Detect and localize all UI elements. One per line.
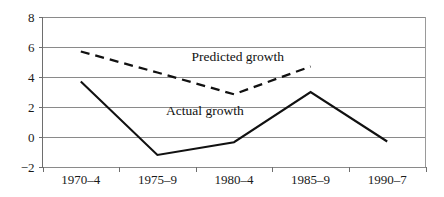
- y-axis-label-6: 6: [28, 40, 35, 55]
- x-axis-label-2: 1980–4: [215, 172, 255, 187]
- y-axis-label--2: −2: [21, 160, 35, 175]
- annotation-predicted-growth: Predicted growth: [192, 49, 285, 64]
- x-axis-label-1: 1975–9: [138, 172, 177, 187]
- x-axis-label-3: 1985–9: [291, 172, 330, 187]
- y-axis-label-2: 2: [28, 100, 35, 115]
- growth-line-chart: −202468 1970–41975–91980–41985–91990–7 P…: [0, 0, 444, 197]
- y-axis-label-0: 0: [28, 130, 35, 145]
- y-axis-label-4: 4: [28, 70, 35, 85]
- x-axis-label-0: 1970–4: [61, 172, 101, 187]
- x-axis-label-4: 1990–7: [368, 172, 408, 187]
- annotation-actual-growth: Actual growth: [166, 103, 244, 118]
- y-axis-label-8: 8: [28, 10, 35, 25]
- chart-canvas: −202468 1970–41975–91980–41985–91990–7 P…: [0, 0, 444, 197]
